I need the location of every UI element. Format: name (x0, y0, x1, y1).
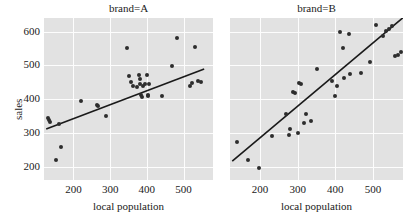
data-point (160, 94, 164, 98)
data-point (359, 71, 363, 75)
x-axis-tick-label: 200 (240, 183, 280, 195)
scatter-panel-brand-a (44, 18, 213, 180)
x-axis-label-a: local population (44, 200, 213, 212)
data-point (284, 112, 288, 116)
data-point (170, 64, 174, 68)
panel-title-b: brand=B (230, 2, 403, 14)
data-point (48, 120, 52, 124)
y-axis-tick-label: 500 (6, 58, 40, 70)
x-axis-tick-label: 500 (353, 183, 393, 195)
x-axis-tick-label: 500 (164, 183, 204, 195)
data-point (138, 77, 142, 81)
data-point (293, 91, 297, 95)
data-point (304, 112, 308, 116)
chart-figure: brand=A brand=B sales 200300400500600 20… (0, 0, 411, 220)
x-axis-tick-label: 200 (53, 183, 93, 195)
data-point (235, 140, 239, 144)
x-axis-tick-label: 300 (90, 183, 130, 195)
y-axis-tick-label: 300 (6, 126, 40, 138)
data-point (270, 134, 274, 138)
data-point (347, 32, 351, 36)
regression-line (230, 18, 403, 180)
data-point (135, 85, 139, 89)
data-point (399, 50, 403, 54)
data-point (309, 119, 313, 123)
scatter-panel-brand-b (230, 18, 403, 180)
x-axis-tick-label: 400 (127, 183, 167, 195)
data-point (333, 94, 337, 98)
y-axis-tick-label: 400 (6, 92, 40, 104)
y-axis-tick-label: 600 (6, 25, 40, 37)
x-axis-label-b: local population (230, 200, 403, 212)
data-point (257, 166, 261, 170)
y-axis-tick-label: 200 (6, 160, 40, 172)
x-axis-tick-label: 400 (315, 183, 355, 195)
x-axis-tick-label: 300 (278, 183, 318, 195)
data-point (338, 30, 342, 34)
data-point (287, 133, 291, 137)
regression-line (44, 18, 213, 180)
panel-title-a: brand=A (44, 2, 213, 14)
data-point (335, 84, 339, 88)
data-point (125, 46, 129, 50)
